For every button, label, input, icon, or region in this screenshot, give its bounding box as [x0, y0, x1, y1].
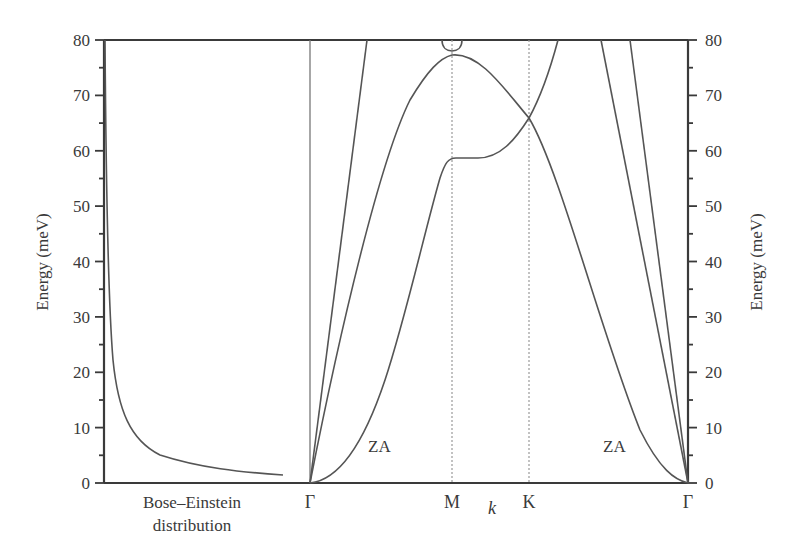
x-label-gamma-left: Γ	[305, 492, 315, 512]
left-tick-labels: 80 70 60 50 40 30 20 10 0	[73, 31, 90, 493]
ytick-right-80: 80	[705, 31, 722, 50]
la-branch-k-gamma	[601, 40, 688, 483]
axes-frame	[104, 40, 688, 483]
bose-einstein-curve	[105, 40, 283, 475]
ytick-left-20: 20	[73, 363, 90, 382]
y-axis-title-left: Energy (meV)	[33, 213, 52, 310]
be-label-line1: Bose–Einstein	[143, 493, 242, 512]
be-label-line2: distribution	[153, 516, 232, 535]
y-axis-title-right: Energy (meV)	[747, 213, 766, 310]
x-label-m: M	[444, 492, 460, 512]
ytick-left-70: 70	[73, 86, 90, 105]
ytick-right-20: 20	[705, 363, 722, 382]
ytick-left-10: 10	[73, 419, 90, 438]
x-axis-title-k: k	[488, 498, 497, 518]
ytick-right-0: 0	[705, 474, 714, 493]
dispersion-curves	[310, 40, 688, 483]
ytick-left-0: 0	[82, 474, 91, 493]
ta-branch-main	[310, 55, 688, 483]
ytick-right-10: 10	[705, 419, 722, 438]
ytick-left-60: 60	[73, 142, 90, 161]
x-label-k: K	[523, 492, 536, 512]
right-axis-ticks	[688, 40, 697, 483]
ytick-left-80: 80	[73, 31, 90, 50]
za-label-left: ZA	[368, 437, 391, 456]
ta-branch-k-gamma	[630, 40, 688, 483]
ytick-right-40: 40	[705, 253, 722, 272]
za-label-right: ZA	[603, 437, 626, 456]
ytick-left-30: 30	[73, 308, 90, 327]
left-axis-ticks	[95, 40, 104, 483]
za-branch-gamma-m-k	[310, 40, 558, 483]
ytick-right-30: 30	[705, 308, 722, 327]
right-tick-labels: 80 70 60 50 40 30 20 10 0	[705, 31, 722, 493]
ytick-right-50: 50	[705, 197, 722, 216]
ytick-left-40: 40	[73, 253, 90, 272]
x-label-gamma-right: Γ	[683, 492, 693, 512]
ytick-right-60: 60	[705, 142, 722, 161]
ytick-right-70: 70	[705, 86, 722, 105]
ytick-left-50: 50	[73, 197, 90, 216]
phonon-dispersion-chart: 80 70 60 50 40 30 20 10 0 80 70 60 50 40…	[0, 0, 796, 560]
